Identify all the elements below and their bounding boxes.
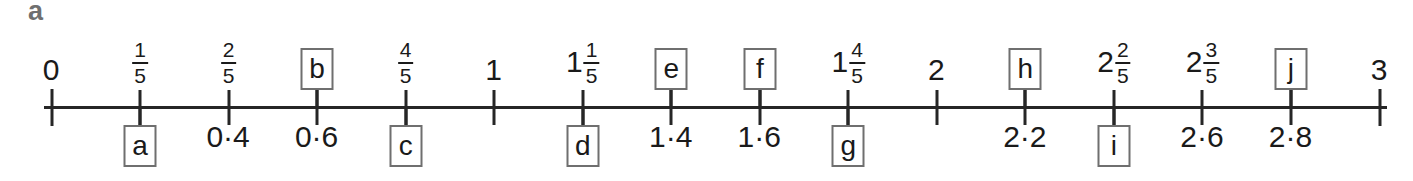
decimal-value: 2·8 — [1269, 122, 1313, 152]
leader-line — [847, 107, 850, 125]
axis-label-below: 2·6 — [1180, 122, 1224, 152]
letter-box[interactable]: e — [655, 48, 688, 90]
axis-label-above: 1 — [485, 55, 503, 85]
letter-marker-a[interactable]: a — [124, 107, 157, 167]
leader-line — [758, 90, 761, 108]
whole-number-value: 0 — [43, 55, 61, 85]
tick-mark — [493, 90, 496, 125]
part-label: a — [28, 0, 43, 25]
whole-number-value: 2 — [928, 55, 946, 85]
letter-box[interactable]: g — [832, 125, 865, 167]
fraction-numerator: 1 — [132, 39, 148, 61]
axis-label-above: 45 — [398, 31, 414, 85]
value-text: 2·8 — [1269, 122, 1313, 152]
axis-label-below: 0·6 — [295, 122, 339, 152]
axis-label-above: 3 — [1371, 55, 1389, 85]
value-text: 1·6 — [738, 122, 782, 152]
tick-mark — [50, 89, 53, 126]
leader-line — [316, 90, 319, 108]
tick-mark — [1378, 89, 1381, 126]
letter-box[interactable]: h — [1009, 48, 1042, 90]
fraction-denominator: 5 — [1115, 64, 1131, 86]
letter-marker-b[interactable]: b — [301, 48, 334, 108]
leader-line — [1289, 90, 1292, 108]
axis-label-above: 2 — [928, 55, 946, 85]
value-text: 2·2 — [1003, 122, 1047, 152]
letter-marker-d[interactable]: d — [566, 107, 599, 167]
fraction: 15 — [584, 39, 600, 86]
fraction: 45 — [849, 39, 865, 86]
axis-label-above: 0 — [43, 55, 61, 85]
leader-line — [139, 107, 142, 125]
fraction: 25 — [221, 39, 237, 86]
letter-box[interactable]: a — [124, 125, 157, 167]
letter-marker-i[interactable]: i — [1097, 107, 1130, 167]
decimal-value: 0·6 — [295, 122, 339, 152]
axis-label-below: 1·4 — [649, 122, 693, 152]
fraction: 15 — [132, 39, 148, 86]
letter-marker-f[interactable]: f — [743, 48, 776, 108]
letter-marker-h[interactable]: h — [1009, 48, 1042, 108]
letter-box[interactable]: j — [1274, 48, 1307, 90]
decimal-value: 2·6 — [1180, 122, 1224, 152]
axis-label-below: 2·8 — [1269, 122, 1313, 152]
decimal-value: 2·2 — [1003, 122, 1047, 152]
value-text: 0·4 — [206, 122, 250, 152]
fraction-denominator: 5 — [132, 64, 148, 86]
leader-line — [1112, 107, 1115, 125]
tick-mark — [935, 90, 938, 125]
mixed-number-value: 145 — [832, 38, 865, 85]
decimal-value: 0·4 — [206, 122, 250, 152]
letter-box[interactable]: c — [389, 125, 422, 167]
fraction-value: 25 — [221, 38, 237, 85]
whole-number-value: 1 — [485, 55, 503, 85]
mixed-whole-part: 2 — [1097, 47, 1115, 77]
fraction-denominator: 5 — [849, 64, 865, 86]
fraction-denominator: 5 — [398, 64, 414, 86]
axis-label-above: 15 — [132, 31, 148, 85]
axis-label-above: 115 — [566, 38, 599, 85]
leader-line — [1024, 90, 1027, 108]
axis-label-above: 145 — [832, 38, 865, 85]
value-text: 2 — [928, 55, 946, 85]
whole-number-value: 3 — [1371, 55, 1389, 85]
value-text: 2·6 — [1180, 122, 1224, 152]
fraction-denominator: 5 — [221, 64, 237, 86]
letter-marker-e[interactable]: e — [655, 48, 688, 108]
mixed-number-value: 225 — [1097, 38, 1130, 85]
mixed-whole-part: 2 — [1186, 47, 1204, 77]
fraction: 25 — [1115, 39, 1131, 86]
fraction-numerator: 2 — [221, 39, 237, 61]
mixed-number-value: 115 — [566, 38, 599, 85]
letter-marker-g[interactable]: g — [832, 107, 865, 167]
value-text: 1 — [485, 55, 503, 85]
value-text: 3 — [1371, 55, 1389, 85]
letter-box[interactable]: i — [1097, 125, 1130, 167]
value-text: 0·6 — [295, 122, 339, 152]
letter-marker-c[interactable]: c — [389, 107, 422, 167]
axis-label-below: 2·2 — [1003, 122, 1047, 152]
letter-marker-j[interactable]: j — [1274, 48, 1307, 108]
letter-box[interactable]: f — [743, 48, 776, 90]
fraction-denominator: 5 — [1203, 64, 1219, 86]
fraction-denominator: 5 — [584, 64, 600, 86]
axis-label-above: 25 — [221, 31, 237, 85]
mixed-number-value: 235 — [1186, 38, 1219, 85]
fraction: 45 — [398, 39, 414, 86]
mixed-whole-part: 1 — [566, 47, 584, 77]
axis-label-above: 235 — [1186, 38, 1219, 85]
letter-box[interactable]: b — [301, 48, 334, 90]
fraction-numerator: 1 — [584, 39, 600, 61]
fraction-numerator: 2 — [1115, 39, 1131, 61]
number-line-axis — [44, 106, 1387, 109]
value-text: 1·4 — [649, 122, 693, 152]
decimal-value: 1·6 — [738, 122, 782, 152]
leader-line — [581, 107, 584, 125]
number-line-worksheet: a 015a250·4b0·645c1115de1·4f1·6145g2h2·2… — [0, 0, 1413, 181]
decimal-value: 1·4 — [649, 122, 693, 152]
fraction-numerator: 3 — [1203, 39, 1219, 61]
axis-label-above: 225 — [1097, 38, 1130, 85]
letter-box[interactable]: d — [566, 125, 599, 167]
value-text: 0 — [43, 55, 61, 85]
mixed-whole-part: 1 — [832, 47, 850, 77]
